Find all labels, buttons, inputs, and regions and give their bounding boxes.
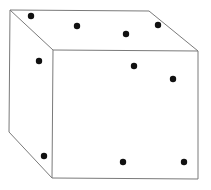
edge-back-left bbox=[9, 10, 10, 132]
dot-top-face bbox=[155, 22, 161, 28]
dot-front-face bbox=[131, 63, 137, 69]
dot-top-face bbox=[74, 23, 80, 29]
dot-left-face bbox=[36, 58, 42, 64]
edge-front-bottom bbox=[52, 178, 198, 179]
dot-top-face bbox=[28, 13, 34, 19]
dot-front-face bbox=[170, 76, 176, 82]
dot-front-face bbox=[120, 159, 126, 165]
cube-diagram bbox=[0, 0, 211, 190]
dot-front-face bbox=[181, 159, 187, 165]
dot-top-face bbox=[123, 31, 129, 37]
edge-front-top bbox=[53, 50, 198, 51]
cube-dots bbox=[28, 13, 187, 165]
edge-front-left bbox=[52, 50, 53, 178]
cube-edges bbox=[9, 10, 198, 179]
edge-back-top bbox=[10, 10, 149, 11]
edge-top-right-diagonal bbox=[149, 11, 198, 51]
dot-left-face bbox=[41, 153, 47, 159]
